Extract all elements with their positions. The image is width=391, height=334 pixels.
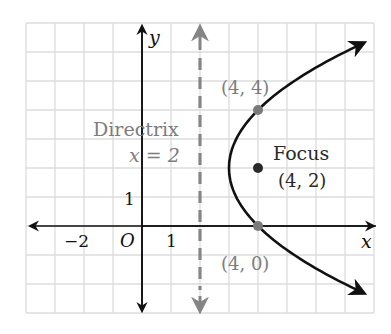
upper-point-label: (4, 4)	[221, 77, 269, 98]
origin-label: O	[120, 230, 135, 251]
lower-point-label: (4, 0)	[221, 253, 269, 274]
focus-coords-label: (4, 2)	[278, 170, 326, 191]
point-lower	[253, 221, 263, 231]
tick-label-y1: 1	[124, 189, 135, 209]
x-axis-label: x	[361, 230, 372, 252]
parabola-chart: y x O −2 1 1 Directrix x = 2 (4, 4) (4, …	[0, 0, 391, 334]
y-axis-label: y	[148, 26, 160, 48]
tick-label-neg2: −2	[64, 231, 89, 251]
directrix-label-1: Directrix	[93, 118, 179, 140]
point-upper	[253, 105, 263, 115]
tick-label-x1: 1	[166, 231, 177, 251]
directrix-label-2: x = 2	[129, 144, 180, 166]
focus-point	[253, 163, 263, 173]
focus-title-label: Focus	[273, 142, 329, 164]
